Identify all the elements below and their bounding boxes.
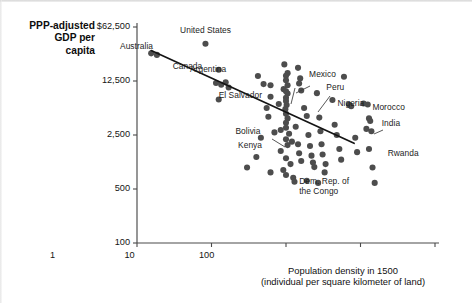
annotation-united-states: United States	[180, 26, 231, 36]
data-point	[287, 161, 293, 167]
y-axis-title-line-2: capita	[29, 45, 95, 57]
data-point	[368, 128, 374, 134]
data-point	[253, 154, 259, 160]
data-point	[336, 146, 342, 152]
data-point	[319, 141, 325, 147]
annotation-peru: Peru	[326, 83, 344, 93]
y-tick-label-3: 500	[115, 183, 130, 193]
x-tick-label-2: 1	[50, 250, 55, 260]
leader-line-0	[291, 88, 295, 104]
leader-line-4	[374, 130, 383, 134]
data-point	[354, 149, 360, 155]
x-axis-title-line-1: (individual per square kilometer of land…	[218, 276, 468, 287]
data-point	[265, 114, 271, 120]
data-point	[278, 148, 284, 154]
data-point	[298, 158, 304, 164]
data-point	[293, 124, 299, 130]
data-point	[244, 164, 250, 170]
data-point	[289, 139, 295, 145]
data-point	[267, 94, 273, 100]
data-point	[352, 135, 358, 141]
data-point	[320, 151, 326, 157]
data-point	[297, 75, 303, 81]
y-axis-title-line-0: PPP-adjusted	[29, 20, 95, 32]
annotation-el-salvador: El Salvador	[219, 91, 262, 101]
data-point	[311, 164, 317, 170]
annotation-australia: Australia	[120, 42, 153, 52]
data-point	[255, 73, 261, 79]
data-point	[281, 61, 287, 67]
annotation-argentina: Argentina	[190, 65, 226, 75]
annotation-nigeria: Nigeria	[337, 99, 364, 109]
annotation-morocco: Morocco	[372, 103, 404, 113]
data-point	[316, 115, 322, 121]
y-tick-label-0: $62,500	[97, 21, 130, 31]
data-point	[295, 65, 301, 71]
y-tick-label-4: 100	[115, 237, 130, 247]
y-tick-label-1: 12,500	[102, 75, 130, 85]
data-point-united-states	[202, 41, 208, 47]
leader-line-2	[318, 96, 330, 112]
data-point	[365, 101, 371, 107]
data-point	[301, 105, 307, 111]
data-point	[286, 131, 292, 137]
data-point	[323, 161, 329, 167]
data-point	[314, 90, 320, 96]
data-point	[296, 150, 302, 156]
annotation-mexico: Mexico	[309, 70, 336, 80]
data-point	[271, 129, 277, 135]
data-point	[276, 101, 282, 107]
data-point	[291, 179, 297, 185]
x-axis-title-line-0: Population density in 1500	[218, 265, 468, 276]
data-point	[329, 97, 335, 103]
annotation-rwanda: Rwanda	[388, 149, 419, 159]
annotation-india: India	[382, 119, 400, 129]
data-point	[341, 74, 347, 80]
annotation-kenya: Kenya	[238, 141, 262, 151]
x-tick-label-3: 10	[125, 250, 135, 260]
data-point	[283, 172, 289, 178]
data-point	[283, 155, 289, 161]
data-point	[278, 127, 284, 133]
annotation-bolivia: Bolivia	[235, 127, 260, 137]
data-point	[267, 169, 273, 175]
data-point	[305, 132, 311, 138]
leader-line-3	[272, 139, 285, 147]
data-point	[295, 141, 301, 147]
data-point	[322, 169, 328, 175]
y-axis-title-line-1: GDP per	[29, 32, 95, 44]
data-point	[307, 143, 313, 149]
data-point	[372, 180, 378, 186]
data-point	[308, 153, 314, 159]
data-point	[283, 136, 289, 142]
data-point-rwanda	[366, 146, 372, 152]
data-point	[332, 122, 338, 128]
data-point	[367, 118, 373, 124]
data-point	[338, 157, 344, 163]
data-point	[283, 125, 289, 131]
data-point	[369, 164, 375, 170]
data-point	[261, 81, 267, 87]
scatter-chart-figure: PPP-adjustedGDP percapita $62,50012,5002…	[0, 0, 472, 303]
data-point	[304, 113, 310, 119]
y-tick-label-2: 2,500	[107, 129, 130, 139]
annotation-line-1: the Congo	[299, 187, 349, 197]
data-point	[267, 82, 273, 88]
data-point	[296, 80, 302, 86]
x-axis-title: Population density in 1500(individual pe…	[218, 265, 468, 288]
x-tick-label-4: 100	[199, 250, 214, 260]
y-axis-title: PPP-adjustedGDP percapita	[29, 20, 95, 57]
annotation-dem-rep-of-the-congo: Dem. Rep. ofthe Congo	[299, 177, 349, 196]
data-point	[264, 105, 270, 111]
